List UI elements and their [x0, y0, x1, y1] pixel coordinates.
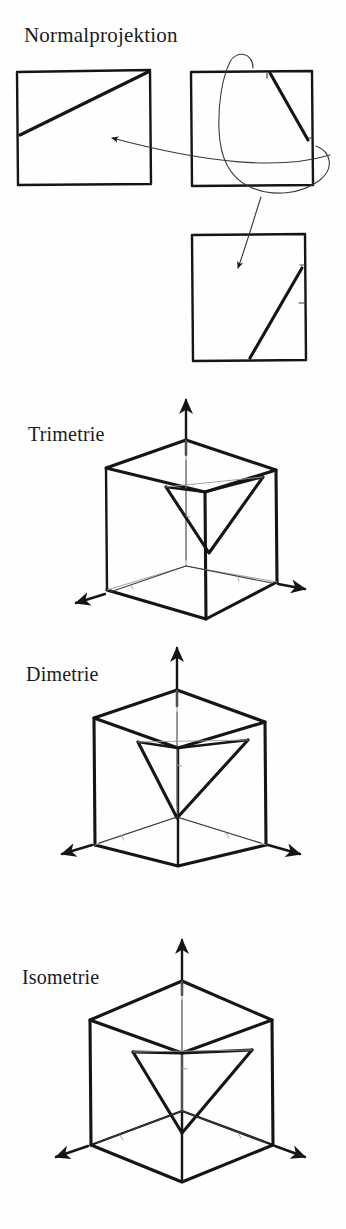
- projection-figure: Normalprojektion Trimetrie Dimetrie Isom…: [0, 0, 346, 1229]
- dimetrie-diagram: [62, 648, 300, 866]
- isometrie-diagram: [56, 940, 305, 1182]
- projection-arrow-to-front: [112, 138, 330, 163]
- trimetrie-diagram: [76, 400, 305, 619]
- figure-drawing-canvas: [0, 0, 346, 1229]
- normalprojektion-square-front: [17, 70, 151, 185]
- normalprojektion-square-side: [192, 234, 306, 361]
- normalprojektion-square-top: [191, 71, 313, 186]
- projection-arrow-to-side: [238, 197, 261, 268]
